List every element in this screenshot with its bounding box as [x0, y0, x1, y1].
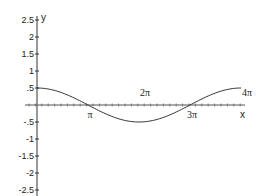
- y-axis-label: y: [41, 12, 46, 23]
- x-tick-label: π: [87, 109, 92, 120]
- axes: [25, 16, 245, 196]
- y-tick-label: 1: [29, 66, 34, 76]
- y-tick-label: 2: [29, 32, 34, 42]
- y-tick-label: 2.5: [21, 15, 34, 25]
- y-tick-label: -2: [26, 168, 34, 178]
- y-tick-label: 1.5: [21, 49, 34, 59]
- x-axis-label: x: [240, 109, 245, 120]
- cosine-plot: 2.521.51.5-.5-1-1.5-2-2.5 π2π3π4π y x: [0, 0, 262, 196]
- x-tick-label: 2π: [140, 87, 150, 98]
- y-tick-label: -.5: [23, 117, 34, 127]
- y-tick-label: .5: [26, 83, 34, 93]
- x-tick-label: 3π: [187, 109, 197, 120]
- y-tick-label: -2.5: [18, 185, 34, 195]
- x-tick-label: 4π: [242, 87, 252, 98]
- y-tick-label: -1: [26, 134, 34, 144]
- y-tick-label: -1.5: [18, 151, 34, 161]
